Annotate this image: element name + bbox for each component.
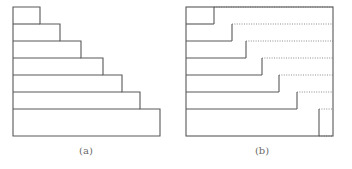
panel-a-caption: (a) (79, 145, 93, 156)
figure-background (0, 0, 352, 169)
figure-container: (a) (b) (0, 0, 352, 169)
panel-b-caption: (b) (255, 145, 269, 156)
staircase-figure: (a) (b) (0, 0, 352, 169)
